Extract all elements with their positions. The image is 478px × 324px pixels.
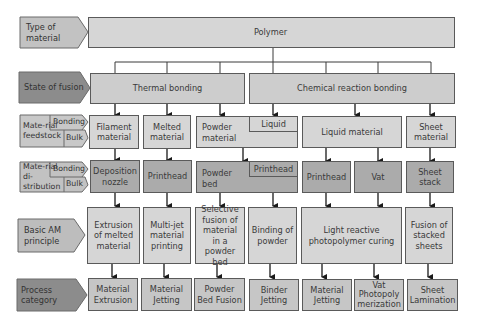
principle-extrusion: Extrusion of melted material — [87, 207, 140, 264]
feedstock-powder-liquid: Liquid — [249, 116, 298, 132]
distribution-deposition-nozzle: Deposition nozzle — [90, 160, 140, 193]
row-label-material-distribution: Mate-rial di-stribution — [20, 162, 53, 192]
row-label-basic-am-principle: Basic AM principle — [18, 219, 78, 252]
row-label-state-of-fusion: State of fusion — [19, 72, 89, 103]
feedstock-filament: Filament material — [89, 115, 139, 149]
category-material-extrusion: Material Extrusion — [88, 278, 138, 311]
row-label-distribution-bonding: Bonding — [50, 162, 86, 177]
principle-light-reactive: Light reactive photopolymer curing — [301, 207, 402, 264]
principle-fusion-sheets: Fusion of stacked sheets — [405, 207, 453, 264]
category-sheet-lamination: Sheet Lamination — [407, 279, 458, 311]
feedstock-powder-label: Powder material — [202, 122, 250, 143]
distribution-sheet-stack: Sheet stack — [406, 161, 454, 193]
row-label-type-of-material: Type of material — [20, 17, 80, 48]
distribution-powder-bed-label: Powder bed — [202, 168, 242, 189]
distribution-powder-bed-printhead: Printhead — [249, 161, 298, 177]
category-vat-photopolymerization: Vat Photopoly merization — [354, 279, 404, 311]
feedstock-sheet: Sheet material — [406, 116, 456, 148]
state-thermal-bonding: Thermal bonding — [90, 73, 245, 104]
principle-multijet: Multi-jet material printing — [143, 207, 191, 264]
row-label-distribution-bulk: Bulk — [64, 177, 88, 192]
row-label-feedstock-bonding: Bonding — [50, 115, 86, 130]
distribution-printhead-2: Printhead — [302, 161, 351, 193]
row-label-material-feedstock: Mate-rial feedstock — [20, 115, 53, 147]
state-chemical-reaction-bonding: Chemical reaction bonding — [249, 73, 455, 104]
category-binder-jetting: Binder Jetting — [249, 279, 299, 311]
category-material-jetting-2: Material Jetting — [302, 279, 352, 311]
category-powder-bed-fusion: Powder Bed Fusion — [194, 278, 245, 311]
feedstock-melted: Melted material — [143, 115, 191, 149]
material-polymer: Polymer — [88, 17, 455, 48]
principle-selective-fusion: Selective fusion of material in a powder… — [195, 207, 245, 264]
principle-binding: Binding of powder — [248, 207, 297, 264]
distribution-vat: Vat — [354, 161, 402, 193]
row-label-feedstock-bulk: Bulk — [64, 130, 88, 147]
row-label-process-category: Process category — [17, 279, 89, 311]
feedstock-liquid: Liquid material — [302, 116, 402, 148]
distribution-printhead: Printhead — [143, 160, 192, 193]
category-material-jetting: Material Jetting — [141, 278, 192, 311]
